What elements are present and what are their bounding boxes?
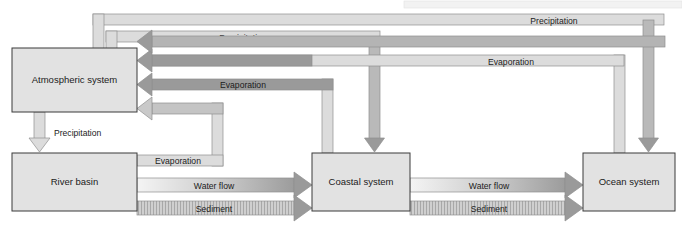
flow-water-coastal-to-ocean: Water flow: [410, 172, 583, 198]
flow-label-precipitation-river: Precipitation: [54, 128, 102, 138]
flow-sediment-river-to-coastal: Sediment: [137, 195, 312, 221]
flow-label-precipitation-ocean: Precipitation: [530, 16, 578, 26]
node-river-basin[interactable]: River basin: [12, 153, 137, 211]
flow-evaporation-ocean-to-atmosphere: Evaporation: [137, 49, 625, 153]
flow-evaporation-river-to-atmosphere: Evaporation: [137, 97, 223, 166]
flow-label-evaporation-river: Evaporation: [155, 156, 201, 166]
flow-label-sediment-river-coastal: Sediment: [196, 204, 233, 214]
flow-label-water-river-coastal: Water flow: [194, 181, 235, 191]
diagram-canvas: Precipitation Precipitation Evaporation: [0, 0, 682, 228]
node-coastal-system[interactable]: Coastal system: [312, 153, 410, 211]
flow-label-sediment-coastal-ocean: Sediment: [471, 204, 508, 214]
flow-water-river-to-coastal: Water flow: [137, 172, 312, 198]
scan-artifact-bar: [404, 1, 682, 8]
water-cycle-diagram: Precipitation Precipitation Evaporation: [0, 0, 682, 228]
node-atmospheric-system[interactable]: Atmospheric system: [12, 48, 137, 112]
node-ocean-system[interactable]: Ocean system: [583, 153, 675, 211]
flow-sediment-coastal-to-ocean: Sediment: [410, 195, 583, 221]
flow-label-evaporation-coastal: Evaporation: [220, 80, 266, 90]
node-label-coastal-system: Coastal system: [329, 176, 394, 187]
node-label-ocean-system: Ocean system: [599, 176, 660, 187]
flow-precipitation-atmosphere-to-river: Precipitation: [29, 112, 102, 152]
node-label-river-basin: River basin: [51, 176, 99, 187]
flow-label-evaporation-ocean: Evaporation: [488, 57, 534, 67]
node-label-atmospheric-system: Atmospheric system: [32, 74, 118, 85]
flow-label-water-coastal-ocean: Water flow: [469, 181, 510, 191]
